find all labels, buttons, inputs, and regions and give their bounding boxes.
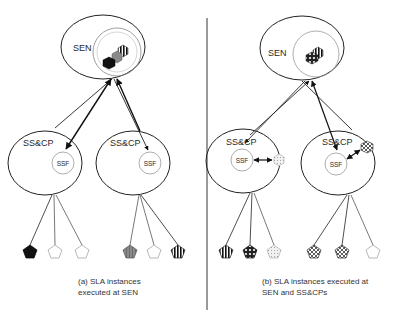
- caption-a: (a) SLA instances executed at SEN: [78, 276, 141, 298]
- leaf-checkered-pentagon-icon: [335, 245, 349, 258]
- leaf-striped-pentagon-icon: [219, 245, 233, 258]
- caption-a-line1: (a) SLA instances: [78, 276, 141, 287]
- ssf-label: SSF: [144, 160, 157, 167]
- leaf-striped-pentagon-icon: [171, 245, 185, 258]
- panel-a: SEN SS&CP SSF SS&CP SSF: [8, 15, 185, 258]
- leaf-white-pentagon-icon: [366, 245, 380, 258]
- sscp-label: SS&CP: [322, 137, 353, 147]
- sscp-node-left: SS&CP SSF: [206, 129, 284, 193]
- sscp-node-right: SS&CP SSF: [301, 131, 375, 195]
- sscp-label: SS&CP: [226, 137, 257, 147]
- leaf-white-pentagon-icon: [147, 245, 161, 258]
- panel-b: SEN SS&CP SSF SS&CP SSF: [206, 16, 380, 258]
- leaf-white-pentagon-icon: [48, 245, 62, 258]
- leaf-dark-checkered-pentagon-icon: [243, 245, 257, 258]
- ssf-label: SSF: [236, 157, 249, 164]
- caption-b-line1: (b) SLA instances executed at: [262, 276, 368, 287]
- sscp-label: SS&CP: [110, 138, 141, 148]
- sla-diagram: SEN SS&CP SSF SS&CP SSF: [0, 0, 401, 316]
- sscp-node-left: SS&CP SSF: [8, 131, 82, 195]
- sscp-node-right: SS&CP SSF: [96, 131, 170, 195]
- caption-b: (b) SLA instances executed at SEN and SS…: [262, 276, 368, 298]
- leaf-checkered-pentagon-icon: [307, 245, 321, 258]
- sen-node: SEN: [61, 15, 145, 79]
- leaf-black-pentagon-icon: [23, 245, 37, 258]
- sen-node: SEN: [260, 16, 344, 80]
- leaf-white-pentagon-icon: [75, 245, 89, 258]
- leaf-white-dotted-pentagon-icon: [267, 245, 281, 258]
- ssf-label: SSF: [57, 160, 70, 167]
- checkered-hexagon-icon: [361, 141, 373, 153]
- caption-a-line2: executed at SEN: [78, 287, 141, 298]
- sen-label: SEN: [268, 48, 287, 58]
- dotted-hexagon-icon: [274, 154, 284, 166]
- ssf-label: SSF: [330, 161, 343, 168]
- caption-b-line2: SEN and SS&CPs: [262, 287, 368, 298]
- leaf-gray-pentagon-icon: [123, 245, 137, 258]
- sen-label: SEN: [73, 43, 92, 53]
- sscp-label: SS&CP: [23, 138, 54, 148]
